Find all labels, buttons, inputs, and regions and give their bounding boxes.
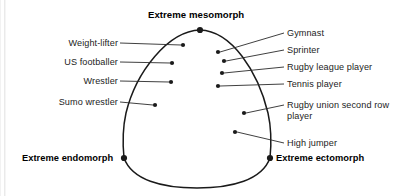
somatotype-diagram: Extreme mesomorph Weight-lifter US footb… <box>0 0 394 196</box>
vertex-dot-mesomorph <box>197 27 203 33</box>
label-us-footballer: US footballer <box>18 57 118 68</box>
vertex-dot-ectomorph <box>267 155 273 161</box>
label-rugby-league-player: Rugby league player <box>287 62 372 73</box>
leader-line-weight-lifter <box>120 43 181 45</box>
data-point-rugby-league-player <box>220 71 224 75</box>
label-tennis-player: Tennis player <box>287 79 342 90</box>
label-sprinter: Sprinter <box>287 45 320 56</box>
data-point-sumo-wrestler <box>153 103 157 107</box>
label-high-jumper: High jumper <box>287 138 337 149</box>
label-sumo-wrestler: Sumo wrestler <box>18 97 118 108</box>
data-point-gymnast <box>216 50 220 54</box>
corner-label-extreme-endomorph: Extreme endomorph <box>22 153 113 163</box>
leader-line-us-footballer <box>120 62 170 63</box>
diagram-title-extreme-mesomorph: Extreme mesomorph <box>148 9 244 20</box>
leader-line-high-jumper <box>237 132 284 143</box>
data-point-rugby-union-second-row-player <box>242 111 246 115</box>
label-wrestler: Wrestler <box>18 76 118 87</box>
label-gymnast: Gymnast <box>287 28 324 39</box>
corner-label-extreme-ectomorph: Extreme ectomorph <box>276 153 364 163</box>
data-point-us-footballer <box>170 61 174 65</box>
leader-line-wrestler <box>120 81 169 82</box>
data-point-sprinter <box>222 59 226 63</box>
somatotype-outline <box>123 30 271 188</box>
leader-line-rugby-union-second-row-player <box>246 105 284 113</box>
leader-line-rugby-league-player <box>224 67 284 73</box>
data-point-weight-lifter <box>181 43 185 47</box>
data-point-tennis-player <box>216 84 220 88</box>
leader-line-tennis-player <box>220 84 284 86</box>
leader-line-sumo-wrestler <box>120 102 153 105</box>
data-point-high-jumper <box>233 130 237 134</box>
leader-line-sprinter <box>226 50 284 61</box>
label-weight-lifter: Weight-lifter <box>18 38 118 49</box>
vertex-dot-endomorph <box>121 155 127 161</box>
label-rugby-union-second-row-player: Rugby union second row player <box>287 100 393 121</box>
data-point-wrestler <box>169 80 173 84</box>
